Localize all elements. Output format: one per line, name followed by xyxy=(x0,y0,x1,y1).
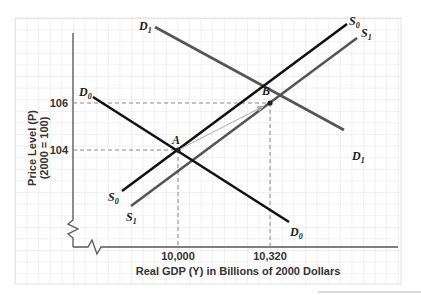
point-a-marker xyxy=(175,147,180,152)
y-axis-title: Price Level (P) (2000 = 100) xyxy=(26,110,50,186)
point-b-label: B xyxy=(261,84,270,98)
x-axis-title: Real GDP (Y) in Billions of 2000 Dollars xyxy=(136,265,341,277)
point-b-marker xyxy=(267,100,272,105)
point-a-label: A xyxy=(171,133,180,147)
label-s0-end: S0 xyxy=(349,14,360,30)
y-axis-title-line1: Price Level (P) xyxy=(26,110,38,186)
x-tick-10000: 10,000 xyxy=(161,250,195,262)
y-tick-104: 104 xyxy=(50,144,69,156)
ad-as-chart: A B D0 D0 D1 D1 S0 S1 S0 S1 106 104 10,0… xyxy=(0,0,421,295)
y-tick-106: 106 xyxy=(50,97,68,109)
y-axis-title-line2: (2000 = 100) xyxy=(38,116,50,179)
x-tick-10320: 10,320 xyxy=(253,250,287,262)
